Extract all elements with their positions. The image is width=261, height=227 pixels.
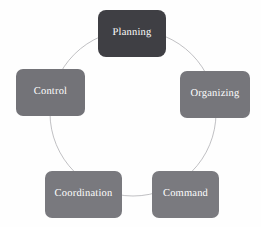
node-control: Control bbox=[16, 69, 85, 116]
node-organizing-label: Organizing bbox=[188, 89, 241, 100]
node-coordination: Coordination bbox=[45, 171, 122, 218]
node-command-label: Command bbox=[161, 189, 210, 200]
node-control-label: Control bbox=[32, 87, 70, 98]
node-organizing: Organizing bbox=[180, 71, 250, 118]
management-cycle-diagram: Planning Organizing Command Coordination… bbox=[0, 0, 261, 227]
node-planning: Planning bbox=[98, 10, 166, 57]
node-planning-label: Planning bbox=[111, 28, 154, 39]
node-command: Command bbox=[152, 171, 219, 218]
node-coordination-label: Coordination bbox=[53, 189, 115, 200]
